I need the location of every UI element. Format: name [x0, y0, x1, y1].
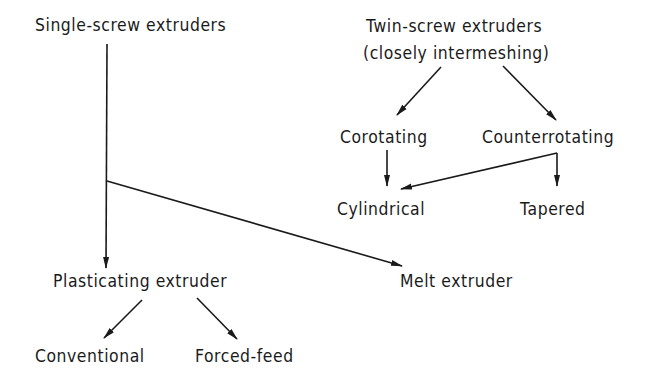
- node-cylindrical: Cylindrical: [337, 199, 425, 219]
- edge-twin-to-counterrotating: [503, 66, 556, 120]
- node-corotating: Corotating: [340, 127, 428, 147]
- edge-single-to-plasticating: [106, 44, 107, 268]
- edge-plasticating-to-forced-feed: [197, 298, 237, 339]
- node-twin-screw-extruders: Twin-screw extruders: [366, 16, 542, 36]
- edge-plasticating-to-conventional: [104, 300, 142, 338]
- node-twin-screw-subtitle: (closely intermeshing): [363, 43, 549, 63]
- node-forced-feed: Forced-feed: [195, 346, 294, 366]
- diagram-connectors: [0, 0, 656, 378]
- node-tapered: Tapered: [520, 199, 586, 219]
- edge-twin-to-corotating: [397, 67, 441, 115]
- node-plasticating-extruder: Plasticating extruder: [53, 271, 227, 291]
- node-counterrotating: Counterrotating: [482, 127, 614, 147]
- extruder-classification-diagram: Single-screw extruders Twin-screw extrud…: [0, 0, 656, 378]
- edge-counterrotating-to-cylindrical: [401, 153, 557, 189]
- node-single-screw-extruders: Single-screw extruders: [35, 15, 226, 35]
- edge-single-to-melt: [107, 181, 402, 266]
- node-conventional: Conventional: [35, 346, 145, 366]
- node-melt-extruder: Melt extruder: [400, 271, 513, 291]
